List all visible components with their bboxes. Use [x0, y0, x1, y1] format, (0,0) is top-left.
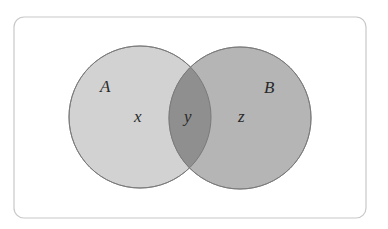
region-intersection-label: y: [182, 107, 192, 126]
venn-diagram: A B x y z: [0, 0, 388, 229]
region-a-only-label: x: [133, 107, 142, 126]
set-b-label: B: [264, 78, 275, 97]
set-a-label: A: [99, 77, 111, 96]
region-b-only-label: z: [237, 107, 245, 126]
